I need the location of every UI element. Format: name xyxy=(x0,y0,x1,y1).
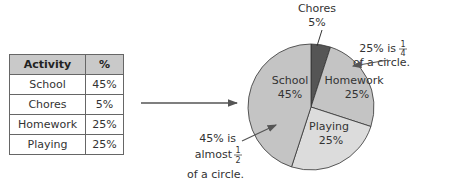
quarter-text-1: 25% is xyxy=(359,42,396,55)
chores-percent: 5% xyxy=(308,16,325,29)
half-text-2: almost xyxy=(195,148,233,161)
chores-label: Chores xyxy=(298,2,336,15)
school-percent: 45% xyxy=(278,88,302,101)
half-text-3: of a circle. xyxy=(187,168,244,181)
homework-label: Homework xyxy=(324,74,384,87)
half-numerator: 1 xyxy=(235,146,240,155)
playing-label: Playing xyxy=(309,120,349,133)
quarter-numerator: 1 xyxy=(400,40,405,49)
half-text-1: 45% is xyxy=(199,132,236,145)
pie-chart-figure: Chores 5% School 45% Homework 25% Playin… xyxy=(0,0,450,186)
quarter-annotation: 25% is 1 4 of a circle. xyxy=(353,40,410,69)
quarter-text-2: of a circle. xyxy=(353,56,410,69)
school-label: School xyxy=(272,74,309,87)
chores-leader-line xyxy=(317,30,322,46)
half-denominator: 2 xyxy=(235,156,240,165)
playing-percent: 25% xyxy=(319,134,343,147)
homework-percent: 25% xyxy=(345,88,369,101)
